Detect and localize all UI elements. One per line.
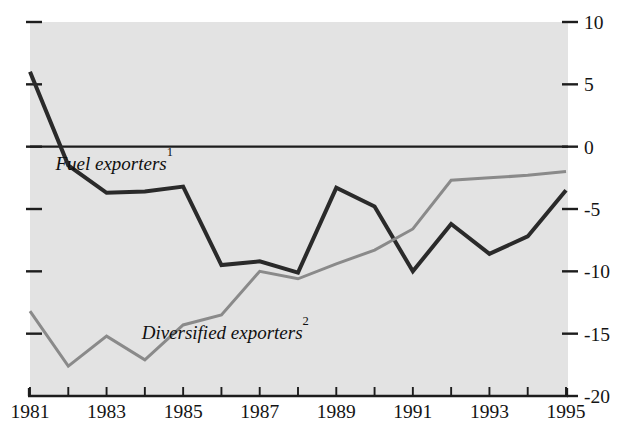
series-annotation-1: Diversified exporters2	[141, 314, 309, 343]
series-annotation-0: Fuel exporters1	[54, 145, 173, 174]
x-axis-label-3: 1987	[240, 401, 279, 422]
series-annotations: Fuel exporters1Diversified exporters2	[54, 145, 308, 342]
chart-figure: 1050-5-10-15-20 198119831985198719891991…	[0, 0, 625, 445]
x-axis-label-1: 1983	[87, 401, 126, 422]
y-axis-label-3: -5	[584, 199, 600, 220]
y-axis-label-2: 0	[584, 137, 594, 158]
x-axis-label-0: 1981	[11, 401, 50, 422]
series-annotation-text-1: Diversified exporters	[141, 322, 303, 343]
x-axis-label-2: 1985	[164, 401, 203, 422]
series-annotation-footnote-1: 2	[303, 314, 309, 328]
y-axis-label-4: -10	[584, 261, 610, 282]
chart-canvas: 1050-5-10-15-20 198119831985198719891991…	[0, 0, 625, 445]
x-axis-label-7: 1995	[547, 401, 586, 422]
y-axis-label-5: -15	[584, 324, 610, 345]
x-axis-ticks	[30, 387, 566, 396]
x-axis-labels: 19811983198519871989199119931995	[11, 401, 586, 422]
y-axis-label-1: 5	[584, 74, 594, 95]
series-annotation-footnote-0: 1	[167, 145, 173, 159]
y-axis-label-0: 10	[584, 12, 604, 33]
y-axis-label-6: -20	[584, 386, 610, 407]
x-axis-label-4: 1989	[317, 401, 356, 422]
y-axis-labels: 1050-5-10-15-20	[584, 12, 610, 407]
x-axis-label-6: 1993	[470, 401, 509, 422]
series-annotation-text-0: Fuel exporters	[54, 153, 166, 174]
x-axis-label-5: 1991	[393, 401, 432, 422]
